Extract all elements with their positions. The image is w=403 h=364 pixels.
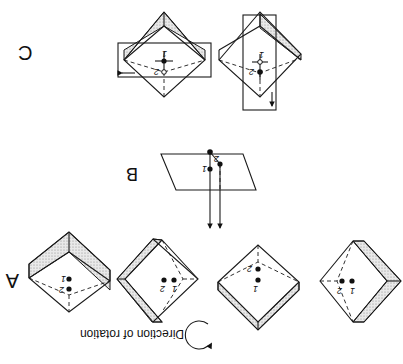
- point-label: 1: [172, 284, 177, 294]
- point-label: 2: [337, 286, 343, 296]
- panel-c-cube-2: 1 2: [219, 12, 301, 110]
- panel-a: A 1 2 1 2: [5, 232, 401, 349]
- point-label: 1: [162, 49, 167, 59]
- point-2: [257, 69, 263, 75]
- point-1: [171, 277, 176, 282]
- point-label: 1: [202, 164, 207, 174]
- point-label: 2: [249, 67, 255, 77]
- panel-a-cube-4: 1 2: [320, 241, 401, 322]
- cube-outline: [117, 239, 198, 322]
- point-2: [339, 278, 344, 283]
- point-1: [255, 277, 260, 282]
- panel-label-a: A: [5, 270, 19, 292]
- origin-point: [207, 149, 213, 155]
- crystal-rotation-diagram: C 1 2: [0, 0, 403, 364]
- panel-c-cube-1: 1 2: [118, 12, 211, 97]
- point-label: 2: [59, 285, 65, 295]
- rotation-legend-text: Direction of rotation: [80, 327, 184, 341]
- point-label: 2: [154, 67, 160, 77]
- point-label: 2: [214, 154, 220, 164]
- point-2: [161, 277, 166, 282]
- point-1: [207, 166, 212, 171]
- panel-a-cube-3: 1 2: [218, 245, 299, 330]
- cube-shaded-face: [260, 14, 301, 60]
- point-label: 1: [61, 274, 66, 284]
- point-label: 1: [350, 286, 355, 296]
- panel-label-c: C: [18, 42, 32, 64]
- panel-c: C 1 2: [18, 12, 301, 110]
- plane-parallelogram: [161, 154, 256, 190]
- rotation-legend: Direction of rotation: [80, 321, 215, 349]
- point-label: 1: [259, 50, 264, 60]
- point-label: 2: [160, 284, 166, 294]
- panel-label-b: B: [126, 164, 138, 184]
- point-1: [349, 278, 354, 283]
- point-2: [66, 286, 71, 291]
- clockwise-rotation-arrow-icon: [185, 321, 208, 349]
- panel-a-cube-2: 1 2: [117, 239, 198, 322]
- point-2: [162, 70, 167, 75]
- panel-b: B 1 2: [126, 149, 256, 228]
- point-label: 1: [253, 284, 258, 294]
- point-2: [255, 266, 260, 271]
- point-label: 2: [247, 264, 253, 274]
- point-1: [66, 276, 71, 281]
- cube-shaded-face: [117, 239, 162, 322]
- panel-a-cube-1: 1 2: [29, 232, 110, 312]
